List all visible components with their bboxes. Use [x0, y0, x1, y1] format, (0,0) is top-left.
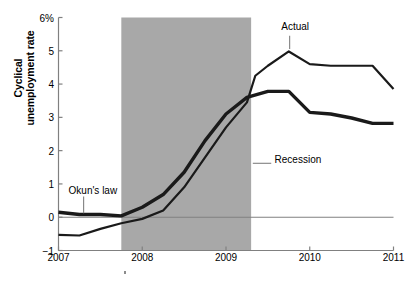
recession-shading — [121, 18, 251, 251]
plot-area — [0, 0, 410, 281]
page-artifact-dot — [124, 271, 126, 274]
chart-figure: Cyclical unemployment rate 6% 5 4 3 2 1 … — [0, 0, 410, 281]
